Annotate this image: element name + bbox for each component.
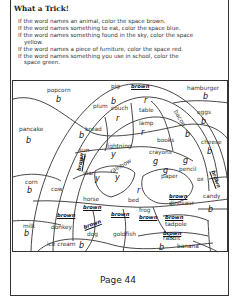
word-lamp: lamp bbox=[139, 120, 154, 126]
instruction-line: If the word names a piece of furniture, … bbox=[18, 46, 223, 53]
mark-lightning: y bbox=[111, 150, 116, 159]
mark-banana: b bbox=[159, 243, 164, 252]
word-goldfish: goldfish bbox=[113, 231, 136, 237]
mark-pencil: g bbox=[183, 156, 188, 165]
worksheet-title: What a Trick! bbox=[14, 4, 69, 13]
word-frog: frog bbox=[139, 207, 151, 213]
mark-dinosaur: brown bbox=[169, 193, 187, 199]
mark-paper: g bbox=[163, 166, 168, 175]
instruction-line: yellow. bbox=[18, 39, 223, 46]
word-cheese: cheese bbox=[201, 139, 222, 145]
mark-candy: b bbox=[208, 205, 213, 214]
word-crayons: crayons bbox=[149, 149, 172, 155]
instructions: If the word names an animal, color the s… bbox=[18, 18, 223, 66]
word-eggs: eggs bbox=[197, 109, 211, 115]
word-lightning: lightning bbox=[106, 143, 132, 149]
mark-table: r bbox=[144, 96, 147, 105]
mark-hamburger: b bbox=[203, 92, 208, 101]
mark-milk: b bbox=[24, 229, 29, 238]
mark-donkey: brown bbox=[57, 212, 75, 218]
instruction-line: space green. bbox=[18, 59, 223, 66]
mark-goldfish: brown bbox=[111, 211, 129, 217]
mark-star: y bbox=[95, 174, 100, 183]
mark-lamp: r bbox=[141, 128, 144, 137]
word-tadpole: tadpole bbox=[165, 221, 187, 227]
mark-frog: brown bbox=[139, 214, 157, 220]
mark-eggs: b bbox=[201, 117, 206, 126]
mark-rainbow: y bbox=[115, 173, 120, 182]
page-number: Page 44 bbox=[0, 275, 236, 285]
word-candy: candy bbox=[203, 193, 221, 199]
coloring-puzzle: popcorn b pig brown hamburger b plum b c… bbox=[12, 80, 228, 252]
word-dog: dog bbox=[87, 231, 98, 237]
word-couch: couch bbox=[111, 105, 128, 111]
instruction-line: If the word names something found in the… bbox=[18, 32, 223, 39]
mark-couch: r bbox=[116, 114, 119, 123]
word-corn: corn bbox=[25, 179, 38, 185]
instruction-line: If the word names an animal, color the s… bbox=[18, 18, 223, 25]
mark-bread: b bbox=[79, 131, 84, 140]
word-table: table bbox=[139, 107, 154, 113]
word-ice-cream: ice cream bbox=[47, 241, 75, 247]
word-books: books bbox=[157, 137, 174, 143]
word-horse: horse bbox=[83, 196, 99, 202]
mark-pancake: b bbox=[26, 136, 31, 145]
mark-bacon: b bbox=[185, 130, 190, 139]
mark-pig: brown bbox=[131, 83, 149, 89]
instruction-line: If the word names something you use in s… bbox=[18, 53, 223, 60]
word-pencil: pencil bbox=[179, 166, 196, 172]
mark-corn: b bbox=[27, 186, 32, 195]
word-plum: plum bbox=[93, 103, 108, 109]
mark-popcorn: b bbox=[56, 95, 61, 104]
word-donkey: donkey bbox=[51, 224, 72, 230]
word-rabbit: rabbit bbox=[163, 235, 180, 241]
mark-ice-cream: b bbox=[79, 241, 84, 250]
instruction-line: If the word names something to eat, colo… bbox=[18, 25, 223, 32]
word-bread: bread bbox=[85, 126, 102, 132]
word-cow: cow bbox=[51, 186, 62, 192]
mark-tadpole: brown bbox=[165, 214, 183, 220]
word-pancake: pancake bbox=[19, 126, 43, 132]
word-star: star bbox=[83, 170, 94, 176]
word-dinosaur: dinosaur bbox=[169, 200, 194, 206]
mark-horse: brown bbox=[83, 204, 101, 210]
mark-bed: r bbox=[137, 186, 140, 195]
mark-cheese: b bbox=[207, 147, 212, 156]
word-ox: ox bbox=[197, 176, 204, 182]
word-banana: banana bbox=[177, 243, 199, 249]
word-pig: pig bbox=[111, 83, 120, 89]
word-hamburger: hamburger bbox=[187, 85, 219, 91]
word-bed: bed bbox=[128, 197, 139, 203]
mark-crayons: g bbox=[153, 157, 158, 166]
word-popcorn: popcorn bbox=[47, 87, 71, 93]
